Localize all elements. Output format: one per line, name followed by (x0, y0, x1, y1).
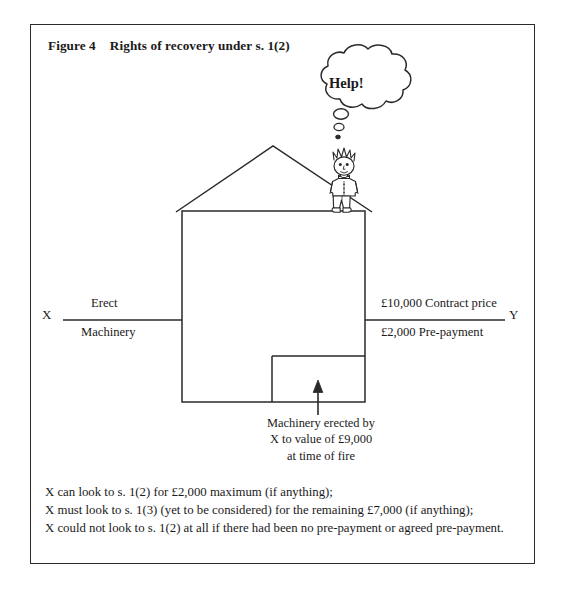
machinery-arrow-head (313, 380, 323, 393)
footnote-line-1: X can look to s. 1(2) for £2,000 maximum… (45, 483, 521, 501)
figure-root: Figure 4Rights of recovery under s. 1(2) (0, 0, 567, 590)
man-shoe-right (343, 208, 351, 212)
caption-line-1: Machinery erected by (231, 415, 411, 431)
man-eye-right (346, 163, 349, 166)
caption-line-2: X to value of £9,000 (231, 431, 411, 447)
label-erect: Erect (91, 296, 118, 310)
label-contract-price: £10,000 Contract price (381, 296, 497, 310)
label-help-text: Help! (329, 75, 364, 92)
label-party-x: X (42, 308, 51, 323)
label-pre-payment: £2,000 Pre-payment (381, 325, 483, 339)
thought-dot-medium (334, 123, 344, 130)
footnote-line-2: X must look to s. 1(3) (yet to be consid… (45, 501, 521, 519)
house-body (182, 211, 365, 402)
man-eye-left (339, 163, 342, 166)
thought-dot-small (336, 135, 341, 139)
footnote-line-3: X could not look to s. 1(2) at all if th… (45, 519, 521, 537)
figure-footnote: X can look to s. 1(2) for £2,000 maximum… (45, 483, 521, 537)
label-party-y: Y (509, 308, 518, 323)
man-shirt-button-3 (343, 192, 345, 194)
thought-dot-large (334, 109, 349, 119)
man-shirt-button-2 (343, 188, 345, 190)
label-machinery: Machinery (81, 325, 136, 339)
machinery-arrow-caption: Machinery erected by X to value of £9,00… (231, 415, 411, 464)
man-shoe-left (332, 208, 340, 212)
cartoon-man-figure (330, 148, 358, 212)
man-shirt-button-1 (343, 184, 345, 186)
caption-line-3: at time of fire (231, 448, 411, 464)
